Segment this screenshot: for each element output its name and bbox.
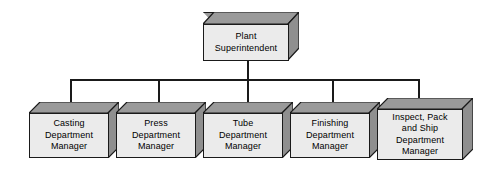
box-front-face: Tube Department Manager [203,113,283,158]
node-finishing-department-manager[interactable]: Finishing Department Manager [290,102,380,158]
connector-root-stem [247,60,249,80]
node-label: Casting Department Manager [42,118,96,153]
node-plant-superintendent[interactable]: Plant Superintendent [203,12,299,61]
node-press-department-manager[interactable]: Press Department Manager [116,102,206,158]
connector-drop-5 [418,79,420,99]
connector-drop-3 [247,79,249,103]
box-front-face: Press Department Manager [116,113,196,158]
node-label: Finishing Department Manager [303,118,357,153]
node-label: Press Department Manager [129,118,183,153]
connector-drop-1 [70,79,72,103]
connector-drop-4 [332,79,334,103]
box-front-face: Inspect, Pack and Ship Department Manage… [377,109,463,160]
connector-horizontal-bus [70,79,420,81]
node-inspect-pack-ship-department-manager[interactable]: Inspect, Pack and Ship Department Manage… [377,98,473,160]
box-front-face: Finishing Department Manager [290,113,370,158]
box-front-face: Plant Superintendent [203,24,289,61]
node-casting-department-manager[interactable]: Casting Department Manager [29,102,119,158]
node-tube-department-manager[interactable]: Tube Department Manager [203,102,293,158]
connector-drop-2 [158,79,160,103]
node-label: Inspect, Pack and Ship Department Manage… [389,112,450,158]
node-label: Tube Department Manager [216,118,270,153]
box-front-face: Casting Department Manager [29,113,109,158]
org-chart-diagram: Plant Superintendent Casting Department … [0,0,484,180]
node-label: Plant Superintendent [212,31,280,54]
